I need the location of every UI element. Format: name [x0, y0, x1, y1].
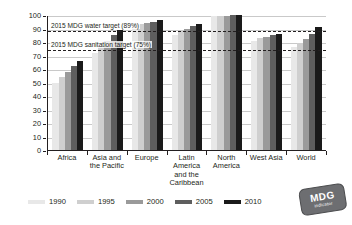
mdg-indicator-logo: MDG indicator — [298, 183, 348, 220]
legend-label: 1990 — [49, 198, 66, 206]
chart-figure: 0102030405060708090100 per cent of total… — [0, 0, 352, 225]
y-tick-label: 10 — [33, 134, 41, 141]
y-tick-label: 40 — [33, 93, 41, 100]
legend-label: 2000 — [147, 198, 164, 206]
y-axis-ticks: 0102030405060708090100 — [0, 16, 44, 151]
y-tick-mark — [43, 124, 46, 125]
bar-group — [127, 16, 167, 150]
mdg-badge: MDG indicator — [298, 183, 348, 217]
y-tick-mark — [43, 97, 46, 98]
bar-group — [167, 16, 207, 150]
x-axis-category-label: North America — [206, 154, 246, 188]
legend-label: 1995 — [98, 198, 115, 206]
legend-item: 2005 — [175, 198, 213, 206]
y-tick-label: 80 — [33, 39, 41, 46]
y-tick-mark — [43, 111, 46, 112]
legend-swatch — [175, 200, 192, 203]
bar — [196, 24, 202, 150]
y-tick-mark — [43, 43, 46, 44]
water-target-line — [48, 31, 326, 32]
x-axis-category-label: Latin America and the Caribbean — [167, 154, 207, 188]
legend-swatch — [126, 200, 143, 203]
legend-label: 2010 — [245, 198, 262, 206]
legend-item: 2000 — [126, 198, 164, 206]
y-tick-label: 50 — [33, 80, 41, 87]
y-tick-label: 60 — [33, 66, 41, 73]
bar — [236, 15, 242, 150]
x-axis-category-label: World — [286, 154, 326, 188]
y-tick-mark — [43, 57, 46, 58]
y-tick-label: 20 — [33, 120, 41, 127]
bar — [77, 61, 83, 150]
plot-area: 2015 MDG water target (89%)2015 MDG sani… — [47, 16, 326, 151]
y-tick-label: 30 — [33, 107, 41, 114]
x-axis-category-label: Africa — [47, 154, 87, 188]
legend-item: 1990 — [28, 198, 66, 206]
water-target-label: 2015 MDG water target (89%) — [50, 22, 140, 29]
legend-item: 2010 — [224, 198, 262, 206]
legend-swatch — [224, 200, 241, 203]
legend-swatch — [77, 200, 94, 203]
bar-group — [88, 16, 128, 150]
legend-item: 1995 — [77, 198, 115, 206]
y-tick-label: 100 — [29, 12, 41, 19]
y-tick-mark — [43, 16, 46, 17]
y-tick-mark — [43, 138, 46, 139]
y-tick-label: 90 — [33, 26, 41, 33]
bar-group — [286, 16, 326, 150]
sanitation-target-line — [48, 50, 326, 51]
y-tick-mark — [43, 151, 46, 152]
bar-groups — [48, 16, 326, 150]
x-axis-labels: AfricaAsia and the PacificEuropeLatin Am… — [47, 154, 326, 188]
sanitation-target-label: 2015 MDG sanitation target (75%) — [50, 41, 152, 48]
x-axis-category-label: Asia and the Pacific — [87, 154, 127, 188]
bar-group — [48, 16, 88, 150]
bar-group — [207, 16, 247, 150]
x-axis-category-label: West Asia — [246, 154, 286, 188]
y-axis-label: per cent of total population — [0, 0, 4, 16]
y-tick-label: 0 — [37, 147, 41, 154]
bar-group — [247, 16, 287, 150]
bar — [157, 20, 163, 150]
bar — [276, 34, 282, 150]
y-tick-mark — [43, 30, 46, 31]
x-axis-category-label: Europe — [127, 154, 167, 188]
legend-label: 2005 — [196, 198, 213, 206]
y-tick-mark — [43, 84, 46, 85]
legend-swatch — [28, 200, 45, 203]
chart-legend: 19901995200020052010 — [28, 198, 324, 206]
bar — [315, 27, 321, 150]
y-tick-mark — [43, 70, 46, 71]
y-tick-label: 70 — [33, 53, 41, 60]
x-tick-mark — [326, 151, 327, 155]
